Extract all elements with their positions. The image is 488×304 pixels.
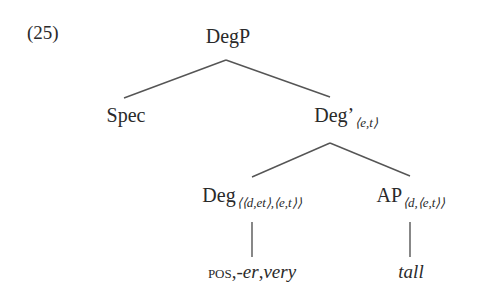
node-label: AP <box>377 184 403 206</box>
node-ap: AP⟨d,⟨e,t⟩⟩ <box>377 184 446 207</box>
leaf-er: -er <box>237 261 259 282</box>
edge-degp-spec <box>124 60 226 98</box>
leaf-tall: tall <box>398 261 423 283</box>
leaf-pos: pos <box>208 262 232 282</box>
node-deg-head: Deg⟨⟨d,et⟩,⟨e,t⟩⟩ <box>202 184 301 207</box>
node-type: ⟨d,⟨e,t⟩⟩ <box>403 195 445 210</box>
node-label: Spec <box>107 104 146 126</box>
node-label: Deg <box>202 184 235 206</box>
leaf-very: very <box>263 261 296 282</box>
node-type: ⟨⟨d,et⟩,⟨e,t⟩⟩ <box>237 195 302 210</box>
edge-degbar-deg <box>252 143 330 177</box>
node-label: Deg’ <box>314 104 354 126</box>
node-deg-bar: Deg’⟨e,t⟩ <box>314 104 378 127</box>
node-type: ⟨e,t⟩ <box>355 115 378 130</box>
leaf-degree-morphemes: pos,-er,very <box>208 261 296 283</box>
edge-degp-degbar <box>226 60 330 97</box>
node-spec: Spec <box>107 104 146 127</box>
edge-degbar-ap <box>330 143 410 176</box>
leaf-label: tall <box>398 261 423 282</box>
node-label: DegP <box>206 25 250 47</box>
node-degp: DegP <box>206 25 250 48</box>
